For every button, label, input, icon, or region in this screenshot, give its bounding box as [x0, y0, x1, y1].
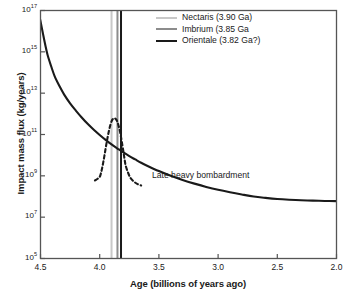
legend-label: Orientale (3.82 Ga?) — [182, 35, 260, 47]
x-tick-label: 2.5 — [260, 262, 294, 272]
y-axis-tick-labels: 1017101510131011109107105 — [0, 0, 37, 295]
x-tick-label: 4.5 — [24, 262, 58, 272]
late-heavy-bombardment-annotation: Late heavy bombardment — [152, 170, 249, 180]
legend-item-nectaris: Nectaris (3.90 Ga) — [156, 12, 260, 24]
x-tick-label: 3.5 — [142, 262, 176, 272]
legend-swatch-line — [156, 40, 177, 42]
axis-frame — [41, 11, 337, 259]
legend-swatch-line — [156, 28, 177, 30]
y-tick-label: 109 — [3, 171, 37, 179]
y-tick-label: 1011 — [3, 130, 37, 138]
x-axis-title: Age (billions of years ago) — [40, 278, 336, 289]
axis-ticks — [41, 11, 337, 259]
x-tick-label: 4.0 — [83, 262, 117, 272]
impact-flux-chart-figure: Impact mass flux (kg/years) 101710151013… — [0, 0, 354, 295]
y-tick-label: 1017 — [3, 6, 37, 14]
legend-label: Nectaris (3.90 Ga) — [182, 12, 252, 24]
x-tick-label: 2.0 — [320, 262, 354, 272]
legend-swatch-line — [156, 17, 177, 19]
legend-item-orientale: Orientale (3.82 Ga?) — [156, 35, 260, 47]
y-tick-label: 105 — [3, 254, 37, 262]
legend-item-imbrium: Imbrium (3.85 Ga — [156, 24, 260, 36]
y-tick-label: 1013 — [3, 88, 37, 96]
event-marker-lines — [112, 11, 121, 259]
chart-legend: Nectaris (3.90 Ga)Imbrium (3.85 GaOrient… — [156, 12, 260, 47]
y-tick-label: 107 — [3, 212, 37, 220]
legend-label: Imbrium (3.85 Ga — [182, 24, 249, 36]
x-tick-label: 3.0 — [201, 262, 235, 272]
y-tick-label: 1015 — [3, 47, 37, 55]
